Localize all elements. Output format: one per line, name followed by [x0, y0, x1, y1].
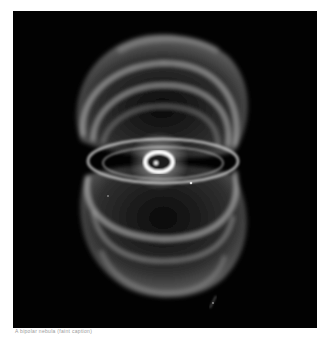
field-star — [190, 182, 193, 185]
image-caption: A bipolar nebula (faint caption) — [15, 328, 92, 334]
central-ring — [145, 152, 173, 172]
nebula-illustration — [13, 11, 317, 328]
field-star — [107, 195, 109, 197]
nebula-photo — [13, 11, 317, 328]
